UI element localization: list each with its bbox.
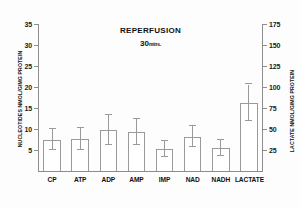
error-bar-line bbox=[248, 85, 249, 121]
right-tick-mark bbox=[263, 45, 267, 46]
right-tick-mark bbox=[263, 24, 267, 25]
bottom-axis-line bbox=[38, 171, 263, 172]
chart-figure: 5101520253035 255075100125150175 NUCLEOT… bbox=[0, 0, 300, 207]
right-tick-label: 25 bbox=[269, 147, 276, 154]
bar-group bbox=[240, 24, 257, 171]
bar-group bbox=[184, 24, 201, 171]
left-tick-label: 25 bbox=[25, 63, 32, 70]
error-cap-upper bbox=[245, 83, 252, 84]
error-bar-line bbox=[136, 119, 137, 145]
error-bar-line bbox=[80, 128, 81, 150]
error-cap-upper bbox=[217, 139, 224, 140]
error-bar-line bbox=[192, 126, 193, 148]
bar-group bbox=[156, 24, 173, 171]
error-cap-upper bbox=[105, 114, 112, 115]
left-axis-title: NUCLEOTIDES NMOL/G/MG PROTEIN bbox=[17, 39, 23, 159]
x-label-nadh: NADH bbox=[207, 176, 235, 184]
right-tick-label: 125 bbox=[269, 63, 280, 70]
left-tick-label: 20 bbox=[25, 84, 32, 91]
error-cap-upper bbox=[77, 127, 84, 128]
bar-group bbox=[212, 24, 229, 171]
right-tick-label: 100 bbox=[269, 84, 280, 91]
right-tick-label: 50 bbox=[269, 126, 276, 133]
error-bar-line bbox=[220, 140, 221, 156]
right-tick-mark bbox=[263, 150, 267, 151]
right-tick-label: 175 bbox=[269, 21, 280, 28]
right-tick-label: 75 bbox=[269, 105, 276, 112]
x-label-lactate: LACTATE bbox=[235, 176, 263, 184]
error-cap-lower bbox=[77, 149, 84, 150]
x-label-cp: CP bbox=[38, 176, 66, 184]
error-cap-lower bbox=[49, 149, 56, 150]
error-cap-lower bbox=[217, 155, 224, 156]
error-bar-line bbox=[108, 115, 109, 145]
x-label-nad: NAD bbox=[179, 176, 207, 184]
bar-group bbox=[100, 24, 117, 171]
error-bar-line bbox=[52, 129, 53, 149]
x-label-adp: ADP bbox=[94, 176, 122, 184]
bar-group bbox=[128, 24, 145, 171]
error-cap-lower bbox=[189, 146, 196, 147]
error-cap-upper bbox=[189, 125, 196, 126]
bar-group bbox=[43, 24, 60, 171]
error-cap-lower bbox=[245, 120, 252, 121]
error-bar-line bbox=[164, 141, 165, 157]
left-tick-label: 15 bbox=[25, 105, 32, 112]
right-tick-label: 150 bbox=[269, 42, 280, 49]
bar-group bbox=[71, 24, 88, 171]
left-tick-label: 5 bbox=[28, 147, 32, 154]
error-cap-lower bbox=[161, 156, 168, 157]
error-cap-upper bbox=[161, 140, 168, 141]
left-tick-label: 30 bbox=[25, 42, 32, 49]
error-cap-upper bbox=[49, 128, 56, 129]
right-tick-mark bbox=[263, 66, 267, 67]
left-tick-label: 35 bbox=[25, 21, 32, 28]
right-axis-title: LACTATE NMOL/G/MG PROTEIN bbox=[289, 51, 295, 171]
right-tick-mark bbox=[263, 87, 267, 88]
plot-area bbox=[38, 24, 263, 171]
left-tick-label: 10 bbox=[25, 126, 32, 133]
right-tick-mark bbox=[263, 108, 267, 109]
error-cap-lower bbox=[133, 144, 140, 145]
x-label-imp: IMP bbox=[151, 176, 179, 184]
x-label-atp: ATP bbox=[66, 176, 94, 184]
x-label-amp: AMP bbox=[122, 176, 150, 184]
right-tick-mark bbox=[263, 129, 267, 130]
error-cap-upper bbox=[133, 118, 140, 119]
error-cap-lower bbox=[105, 144, 112, 145]
